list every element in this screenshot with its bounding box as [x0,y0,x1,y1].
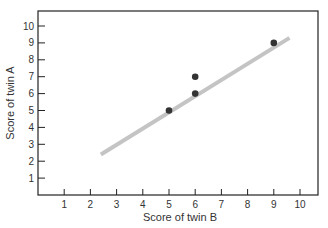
y-tick-label: 6 [28,88,34,99]
y-tick-label: 1 [28,173,34,184]
data-point [192,90,199,97]
y-tick-label: 8 [28,54,34,65]
y-axis-label: Score of twin A [4,66,16,140]
y-tick-label: 3 [28,139,34,150]
x-tick-label: 8 [245,199,251,210]
y-tick-label: 10 [23,21,35,32]
data-point [271,40,278,47]
plot-border [38,11,318,195]
y-tick-label: 9 [28,37,34,48]
scatter-chart: 12345678910 12345678910 Score of twin B … [0,0,328,228]
x-axis: 12345678910 [61,189,306,210]
y-tick-label: 2 [28,156,34,167]
x-tick-label: 10 [294,199,306,210]
x-tick-label: 5 [166,199,172,210]
x-tick-label: 4 [140,199,146,210]
data-point [192,73,199,80]
plot-frame [38,11,318,195]
y-tick-label: 4 [28,122,34,133]
data-point [166,107,173,114]
y-tick-label: 7 [28,71,34,82]
x-tick-label: 1 [61,199,67,210]
x-tick-label: 9 [271,199,277,210]
x-tick-label: 7 [219,199,225,210]
x-axis-label: Score of twin B [143,211,217,223]
x-tick-label: 3 [114,199,120,210]
y-axis: 12345678910 [23,21,45,184]
x-tick-label: 6 [192,199,198,210]
y-tick-label: 5 [28,105,34,116]
x-tick-label: 2 [88,199,94,210]
